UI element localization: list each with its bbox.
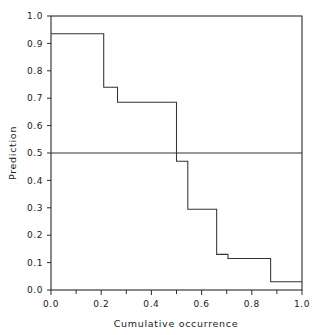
y-axis-tick-labels: 0.00.10.20.30.40.50.60.70.80.91.0 — [27, 11, 43, 295]
x-tick-label: 0.8 — [244, 299, 260, 309]
x-tick-label: 0.0 — [43, 299, 59, 309]
y-tick-label: 0.5 — [27, 148, 43, 158]
y-tick-label: 0.9 — [27, 39, 43, 49]
y-axis-title: Prediction — [7, 126, 18, 180]
chart-figure: 0.00.10.20.30.40.50.60.70.80.91.0 0.00.2… — [0, 0, 320, 335]
prediction-step-chart: 0.00.10.20.30.40.50.60.70.80.91.0 0.00.2… — [0, 0, 320, 335]
y-tick-label: 0.0 — [27, 285, 43, 295]
y-tick-label: 0.3 — [27, 203, 43, 213]
x-tick-label: 0.6 — [194, 299, 210, 309]
y-tick-label: 0.1 — [27, 258, 43, 268]
x-tick-label: 0.2 — [93, 299, 109, 309]
y-tick-label: 0.8 — [27, 66, 43, 76]
y-tick-label: 1.0 — [27, 11, 43, 21]
x-tick-label: 1.0 — [294, 299, 310, 309]
y-tick-label: 0.2 — [27, 230, 43, 240]
x-axis-minor-ticks — [76, 290, 277, 294]
x-axis-title: Cumulative occurrence — [114, 318, 239, 329]
y-axis-ticks — [47, 16, 51, 290]
x-tick-label: 0.4 — [143, 299, 159, 309]
x-axis-tick-labels: 0.00.20.40.60.81.0 — [43, 299, 310, 309]
y-tick-label: 0.6 — [27, 121, 43, 131]
y-tick-label: 0.7 — [27, 93, 43, 103]
y-tick-label: 0.4 — [27, 176, 43, 186]
